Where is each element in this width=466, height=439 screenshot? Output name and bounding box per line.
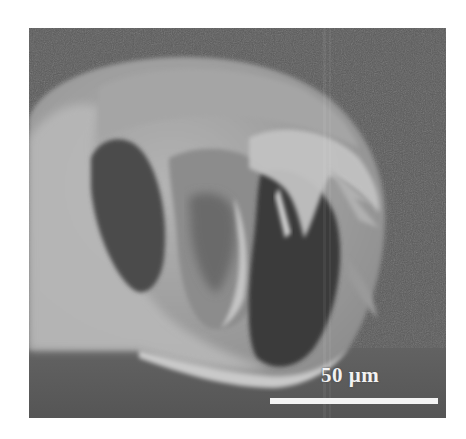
- sem-micrograph: 50 µm: [29, 28, 446, 418]
- scale-bar: [270, 398, 438, 404]
- fiber-illustration: [29, 28, 446, 418]
- scale-bar-label: 50 µm: [321, 363, 379, 388]
